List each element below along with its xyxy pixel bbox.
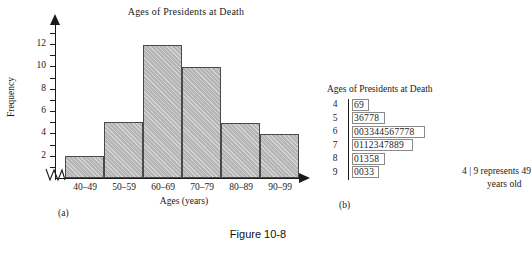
stem-leaf-key-line-2: years old <box>487 179 522 189</box>
leaf-values-4: 69 <box>352 99 369 111</box>
leaf-values-6: 003344567778 <box>352 126 425 138</box>
stem-value-6: 6 <box>329 125 341 139</box>
x-axis-line <box>55 178 300 179</box>
y-tick-label-8: 8 <box>24 84 46 93</box>
bar-40-49 <box>65 156 104 178</box>
y-tick-2 <box>50 156 56 157</box>
x-tick-label-40-49: 40–49 <box>63 182 107 192</box>
x-tick-label-60-69: 60–69 <box>141 182 185 192</box>
stem-and-leaf-panel: Ages of Presidents at Death 4 69 5 36778… <box>327 84 516 204</box>
y-tick-8 <box>50 89 56 90</box>
y-tick-label-4: 4 <box>24 128 46 137</box>
stem-value-4: 4 <box>329 98 341 112</box>
axis-break-zigzag-icon <box>45 168 67 182</box>
x-axis-title: Ages (years) <box>104 196 264 206</box>
y-tick-label-2: 2 <box>24 151 46 160</box>
bar-80-89 <box>221 123 260 178</box>
histogram-bars <box>65 38 300 178</box>
y-tick-label-12: 12 <box>24 39 46 48</box>
stem-and-leaf-title: Ages of Presidents at Death <box>327 84 433 94</box>
x-tick-label-50-59: 50–59 <box>102 182 146 192</box>
stem-leaf-key-line-1: 4 | 9 represents 49 <box>462 166 531 176</box>
panel-b-label: (b) <box>339 200 350 210</box>
y-tick-label-10: 10 <box>24 61 46 70</box>
bar-50-59 <box>104 122 143 178</box>
leaf-values-7: 0112347889 <box>352 139 413 151</box>
leaf-values-9: 0033 <box>352 166 379 178</box>
bar-60-69 <box>143 45 182 178</box>
y-tick-12 <box>50 44 56 45</box>
stem-value-7: 7 <box>329 139 341 153</box>
stem-value-8: 8 <box>329 152 341 166</box>
y-tick-6 <box>50 111 56 112</box>
leaf-values-8: 01358 <box>352 153 385 165</box>
x-tick-label-70-79: 70–79 <box>180 182 224 192</box>
y-tick-5 <box>50 122 56 123</box>
x-tick-label-80-89: 80–89 <box>219 182 263 192</box>
bar-90-99 <box>260 134 299 178</box>
y-tick-4 <box>50 133 56 134</box>
y-tick-7 <box>50 100 56 101</box>
stem-value-5: 5 <box>329 112 341 126</box>
y-axis-title: Frequency <box>6 52 16 142</box>
y-tick-10 <box>50 66 56 67</box>
y-tick-label-6: 6 <box>24 106 46 115</box>
y-tick-11 <box>50 55 56 56</box>
leaf-values-5: 36778 <box>352 112 385 124</box>
y-tick-3 <box>50 145 56 146</box>
histogram-panel: Ages of Presidents at Death 12 10 8 6 4 … <box>0 0 316 230</box>
bar-70-79 <box>182 67 221 178</box>
stem-value-9: 9 <box>329 166 341 180</box>
stem-leaf-divider <box>348 99 349 180</box>
y-tick-13 <box>50 33 56 34</box>
y-tick-9 <box>50 78 56 79</box>
figure-caption: Figure 10-8 <box>0 228 516 240</box>
panel-a-label: (a) <box>58 208 69 218</box>
x-tick-label-90-99: 90–99 <box>258 182 302 192</box>
histogram-title: Ages of Presidents at Death <box>96 6 276 17</box>
